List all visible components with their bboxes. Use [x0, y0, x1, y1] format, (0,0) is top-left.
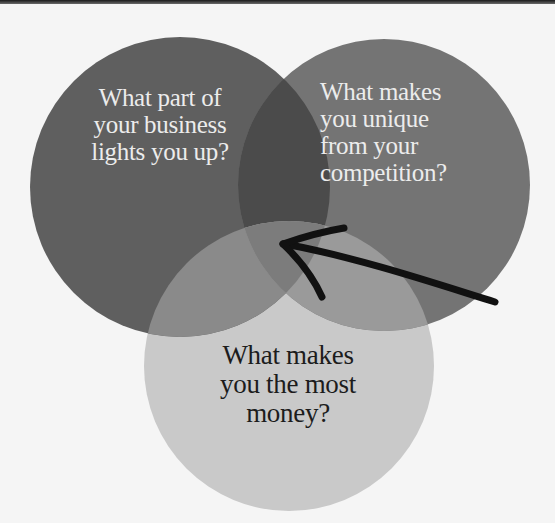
label-line: lights you up?: [60, 138, 260, 165]
label-line: you unique: [320, 105, 496, 132]
label-line: What makes: [180, 341, 396, 370]
circle-right-label: What makes you unique from your competit…: [320, 78, 496, 186]
circle-bottom-label: What makes you the most money?: [180, 341, 396, 428]
label-line: competition?: [320, 159, 496, 186]
label-line: you the most: [180, 370, 396, 399]
circle-left-label: What part of your business lights you up…: [60, 84, 260, 165]
venn-diagram-page: What part of your business lights you up…: [0, 0, 555, 523]
label-line: What makes: [320, 78, 496, 105]
label-line: What part of: [60, 84, 260, 111]
label-line: money?: [180, 399, 396, 428]
label-line: from your: [320, 132, 496, 159]
label-line: your business: [60, 111, 260, 138]
